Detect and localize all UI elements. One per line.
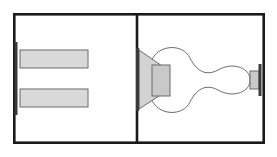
- funnel-core-block: [152, 65, 170, 96]
- divider-edge-bar: [136, 48, 139, 111]
- right-neck-block: [250, 71, 259, 89]
- lower-plate: [20, 89, 88, 107]
- upper-plate: [20, 50, 88, 68]
- left-edge-bar: [15, 42, 18, 115]
- right-edge-bar: [259, 64, 262, 96]
- technical-diagram: Two-panel technical cross-section diagra…: [0, 0, 277, 157]
- figure-root: Two-panel technical cross-section diagra…: [0, 0, 277, 157]
